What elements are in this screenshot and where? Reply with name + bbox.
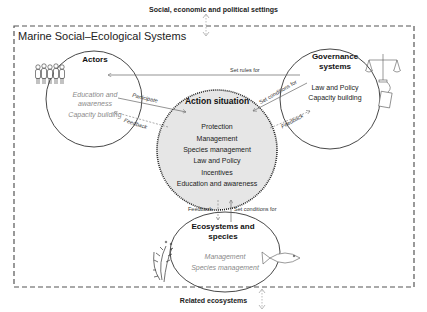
ecosystems-title: Ecosystems and (183, 222, 263, 232)
governance-item: Capacity building (300, 93, 370, 103)
governance-item: Law and Policy (300, 83, 370, 93)
action-item: Protection (167, 122, 267, 132)
action-item: Species management (167, 145, 267, 155)
system-title: Marine Social–Ecological Systems (18, 30, 186, 42)
actors-title: Actors (70, 55, 120, 65)
social-economic-political-settings-label: Social, economic and political settings (0, 6, 427, 13)
action-item: Law and Policy (167, 156, 267, 166)
governance-title: Governance (300, 52, 370, 62)
ecosystems-item: Species management (180, 263, 270, 273)
actors-item: Capacity building (55, 110, 135, 120)
action-item: Management (167, 134, 267, 144)
scales-icon (365, 54, 401, 82)
action-item: Incentives (167, 168, 267, 178)
related-ecosystems-label: Related ecosystems (0, 297, 427, 304)
edge-label-set-rules-for: Set rules for (230, 67, 260, 73)
edge-label-set-conditions-eco: Set conditions for (234, 206, 277, 212)
action-item: Education and awareness (157, 179, 277, 189)
top-double-arrow (203, 14, 209, 36)
ecosystems-item: Management (180, 252, 270, 262)
document-icon (379, 82, 392, 108)
edge-label-feedback-eco: Feedback (188, 206, 212, 212)
actors-item: awareness (55, 99, 135, 109)
action-situation-title: Action situation (177, 96, 257, 106)
governance-title: systems (300, 62, 370, 72)
ecosystems-title: species (183, 232, 263, 242)
